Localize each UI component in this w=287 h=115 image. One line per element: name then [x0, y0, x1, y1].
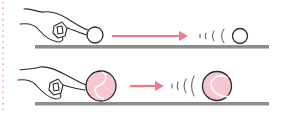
hand-icon	[20, 9, 88, 42]
floor-surface	[35, 102, 269, 106]
motion-lines-icon	[172, 76, 194, 96]
arrowhead-icon	[179, 31, 188, 41]
white-ball-start	[87, 27, 103, 43]
row-light-ball	[20, 9, 269, 49]
motion-lines-icon	[200, 29, 224, 43]
arrowhead-icon	[155, 81, 164, 91]
white-ball-end	[233, 29, 248, 44]
hand-icon	[18, 67, 86, 99]
row-heavy-ball	[18, 67, 269, 106]
pink-ball-start	[86, 71, 116, 101]
flick-ball-illustration	[0, 0, 287, 115]
floor-surface	[35, 45, 269, 49]
